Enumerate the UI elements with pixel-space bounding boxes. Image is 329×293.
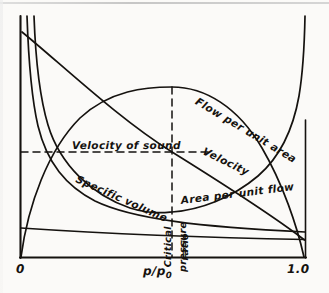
critical-pressure-ratio-line-1: Critical bbox=[164, 226, 174, 267]
curve-specific-volume bbox=[27, 16, 305, 232]
critical-pressure-ratio-line-3: ratio bbox=[181, 233, 191, 260]
x-axis-title-subscript: 0 bbox=[166, 271, 172, 281]
x-axis-title: p/p0 bbox=[143, 265, 172, 281]
x-axis-title-main: p/p bbox=[143, 264, 166, 278]
x-axis-tick-one: 1.0 bbox=[287, 263, 309, 275]
annotation-velocity-of-sound: Velocity of sound bbox=[72, 141, 181, 152]
figure-nozzle-flow-properties: Flow per unit area Velocity of sound Vel… bbox=[0, 0, 329, 293]
x-axis-tick-zero: 0 bbox=[16, 263, 25, 275]
